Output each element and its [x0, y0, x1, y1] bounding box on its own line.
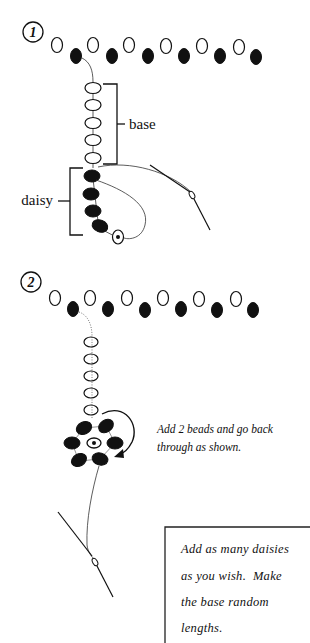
daisy-bracket: daisy — [21, 168, 83, 235]
note-line-2: as you wish. Make — [181, 569, 282, 583]
step-2-caption-line-1: Add 2 beads and go back — [156, 423, 274, 436]
curved-arrow-icon — [102, 411, 134, 458]
daisy-flower — [64, 416, 123, 469]
step-2-number-badge: 2 — [21, 272, 41, 292]
step-1-needle-icon — [150, 165, 210, 230]
step-1-thread-to-needle — [98, 165, 191, 192]
step-1-thread-top — [82, 58, 93, 82]
step-2-caption-line-2: through as shown. — [157, 441, 241, 454]
step-2-number: 2 — [27, 275, 35, 290]
anchor-bead — [113, 230, 124, 244]
note-line-3: the base random — [181, 595, 269, 609]
base-bracket: base — [103, 84, 156, 164]
base-label: base — [129, 116, 156, 132]
beading-diagram: 1 — [0, 0, 310, 643]
daisy-label: daisy — [21, 192, 53, 208]
step-2-base-beads — [84, 337, 98, 415]
step-1-bead-row — [52, 38, 262, 65]
step-1-daisy-beads — [83, 170, 124, 244]
step-1-number-badge: 1 — [23, 22, 43, 42]
step-1-base-beads — [85, 82, 101, 168]
step-1-number: 1 — [30, 25, 37, 40]
step-1: 1 — [21, 22, 261, 244]
note-line-4: lengths. — [181, 621, 223, 635]
note-line-1: Add as many daisies — [180, 542, 289, 556]
step-2-dotted-thread — [79, 312, 92, 418]
center-bead — [87, 438, 101, 448]
note-box: Add as many daisies as you wish. Make th… — [165, 527, 310, 643]
step-2-bead-row — [50, 291, 259, 318]
step-2-needle-icon — [58, 512, 113, 597]
step-2-thread — [87, 466, 99, 560]
